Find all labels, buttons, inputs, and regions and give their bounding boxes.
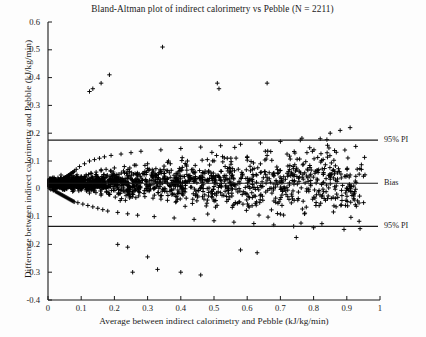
y-tick-label: -0.3 [10, 267, 40, 277]
scatter-plot [0, 0, 426, 337]
figure-canvas: Bland-Altman plot of indirect calorimetr… [0, 0, 426, 337]
x-tick-label: 0.9 [332, 303, 362, 313]
y-tick-label: 0.5 [10, 44, 40, 54]
data-markers [47, 45, 367, 277]
y-tick-label: -0.2 [10, 239, 40, 249]
x-tick-label: 0.1 [66, 303, 96, 313]
y-tick-label: 0.3 [10, 100, 40, 110]
x-tick-label: 0 [33, 303, 63, 313]
x-tick-label: 0.6 [232, 303, 262, 313]
y-axis-ticks [48, 22, 52, 300]
x-tick-label: 0.3 [133, 303, 163, 313]
x-tick-label: 0.2 [99, 303, 129, 313]
reference-line-label-upper-pi: 95% PI [384, 135, 408, 144]
x-tick-label: 1 [365, 303, 395, 313]
x-tick-label: 0.7 [265, 303, 295, 313]
reference-line-label-lower-pi: 95% PI [384, 221, 408, 230]
x-tick-label: 0.4 [166, 303, 196, 313]
y-tick-label: 0 [10, 183, 40, 193]
y-tick-label: 0.6 [10, 17, 40, 27]
y-tick-label: 0.4 [10, 72, 40, 82]
x-tick-label: 0.5 [199, 303, 229, 313]
x-axis-ticks [48, 296, 380, 300]
y-tick-label: -0.1 [10, 211, 40, 221]
y-tick-label: 0.2 [10, 128, 40, 138]
reference-line-label-bias: Bias [384, 178, 399, 187]
x-tick-label: 0.8 [299, 303, 329, 313]
y-tick-label: 0.1 [10, 156, 40, 166]
